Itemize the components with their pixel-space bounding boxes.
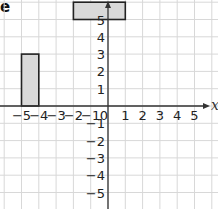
y-tick-label: −2 (86, 134, 105, 149)
x-tick-labels: −5−4−3−2−1012345 (12, 108, 199, 123)
y-tick-label: 1 (97, 82, 105, 97)
y-tick-label: 2 (97, 64, 105, 79)
x-tick-label: 2 (138, 108, 146, 123)
x-axis-label: x (211, 97, 218, 113)
y-tick-label: −1 (86, 116, 105, 131)
x-tick-label: −5 (12, 108, 31, 123)
y-tick-label: −3 (86, 151, 105, 166)
x-tick-label: 4 (173, 108, 181, 123)
x-axis-arrow-icon (203, 103, 210, 109)
x-tick-label: −2 (64, 108, 83, 123)
x-tick-label: −3 (47, 108, 66, 123)
y-tick-label: 4 (97, 30, 105, 45)
y-tick-label: 3 (97, 47, 105, 62)
coordinate-grid: x −5−4−3−2−1012345 54321−1−2−3−4−5 (0, 0, 218, 209)
y-tick-label: −4 (86, 168, 105, 183)
x-tick-label: 5 (190, 108, 198, 123)
x-tick-label: 3 (156, 108, 164, 123)
x-tick-label: 1 (121, 108, 129, 123)
y-tick-label: −5 (86, 186, 105, 201)
y-tick-label: 5 (97, 13, 105, 28)
left-rectangle (22, 54, 39, 106)
x-tick-label: −4 (29, 108, 48, 123)
